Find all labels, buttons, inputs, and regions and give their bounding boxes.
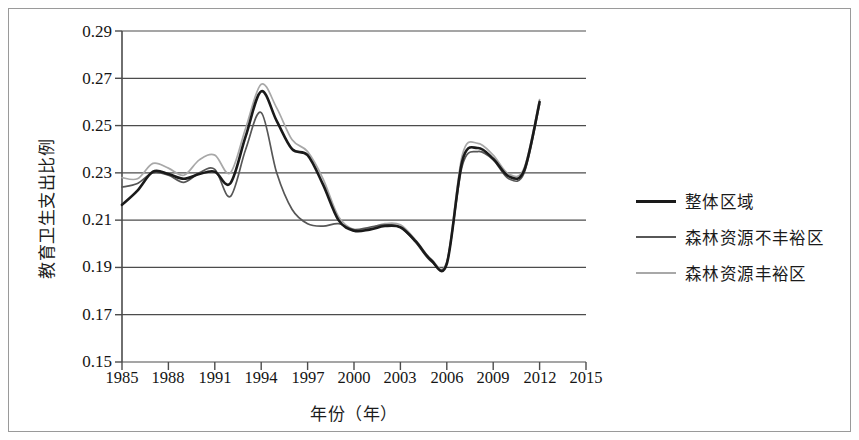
y-tick-marks	[115, 31, 122, 362]
series-line	[122, 91, 540, 271]
legend-label: 整体区域	[685, 189, 755, 213]
y-axis-title: 教育卫生支出比例	[33, 94, 58, 324]
series-line	[122, 84, 540, 270]
x-tick-marks	[122, 362, 586, 370]
series-paths	[122, 84, 540, 271]
figure-root: 0.29 0.27 0.25 0.23 0.21 0.19 0.17 0.15 …	[0, 0, 859, 440]
legend-item-forest-rich: 森林资源丰裕区	[636, 255, 848, 291]
series-line	[122, 104, 540, 270]
chart-legend: 整体区域 森林资源不丰裕区 森林资源丰裕区	[636, 183, 848, 291]
legend-swatch-icon	[636, 272, 676, 274]
legend-swatch-icon	[636, 200, 676, 203]
line-chart: 0.29 0.27 0.25 0.23 0.21 0.19 0.17 0.15 …	[0, 0, 859, 440]
legend-swatch-icon	[636, 236, 676, 238]
legend-label: 森林资源丰裕区	[685, 261, 807, 285]
legend-label: 森林资源不丰裕区	[685, 225, 824, 249]
legend-item-non-forest-rich: 森林资源不丰裕区	[636, 219, 848, 255]
gridlines	[122, 31, 586, 362]
legend-item-overall: 整体区域	[636, 183, 848, 219]
x-axis-title: 年份（年）	[122, 400, 586, 425]
